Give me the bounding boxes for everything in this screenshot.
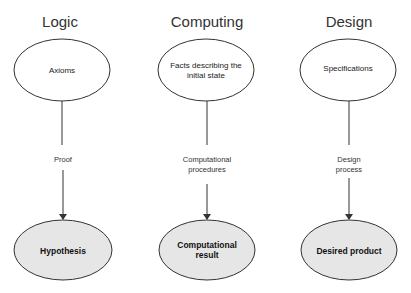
end-node-label: Desired product (316, 246, 381, 256)
edge-label-line2: process (336, 165, 363, 174)
start-node-label-line1: Facts describing the (170, 61, 242, 70)
column-design: Design Specifications Design process Des… (300, 13, 397, 280)
end-node-label-line2: result (195, 250, 218, 260)
column-title: Logic (42, 13, 78, 30)
diagram-canvas: Logic Axioms Proof Hypothesis Computing … (0, 0, 411, 293)
column-logic: Logic Axioms Proof Hypothesis (14, 13, 112, 280)
edge-label-line1: Computational (183, 155, 232, 164)
start-node-label: Specifications (323, 64, 372, 73)
start-node-facts (158, 39, 254, 101)
edge-label-line1: Design (337, 155, 360, 164)
start-node-label-line2: initial state (187, 71, 225, 80)
end-node-label-line1: Computational (177, 240, 237, 250)
column-title: Design (326, 13, 373, 30)
column-title: Computing (171, 13, 244, 30)
start-node-label: Axioms (49, 66, 75, 75)
column-computing: Computing Facts describing the initial s… (158, 13, 255, 280)
edge-label-proof: Proof (54, 155, 73, 164)
end-node-label: Hypothesis (40, 246, 86, 256)
edge-label-line2: procedures (188, 165, 226, 174)
